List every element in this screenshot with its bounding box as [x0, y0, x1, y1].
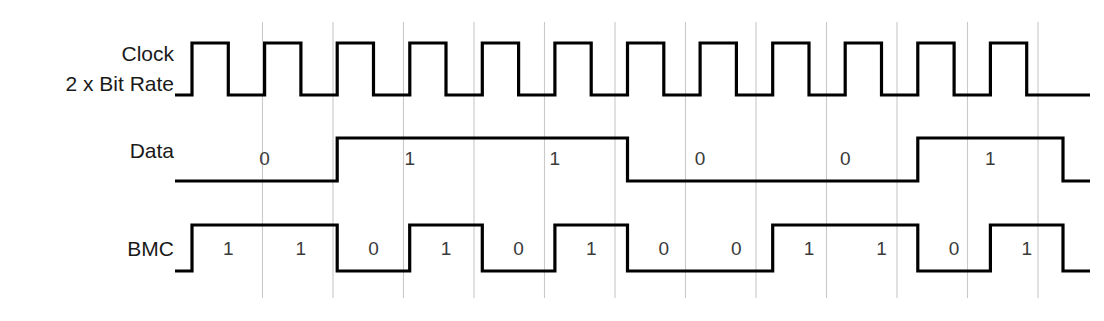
gridline-group	[263, 22, 1039, 298]
bit-label-bmc-8: 1	[804, 238, 815, 259]
bit-label-data-2: 1	[550, 148, 561, 169]
bit-label-data-5: 1	[985, 148, 996, 169]
clock-waveform	[175, 43, 1090, 95]
bit-label-bmc-10: 0	[949, 238, 960, 259]
waveform-group	[175, 43, 1090, 271]
row-label-clock: Clock	[121, 42, 174, 65]
bit-label-bmc-2: 0	[368, 238, 379, 259]
bit-label-bmc-7: 0	[731, 238, 742, 259]
row-label-data: Data	[130, 139, 175, 162]
row-label-clock: 2 x Bit Rate	[65, 72, 174, 95]
data-waveform	[175, 138, 1090, 181]
timing-diagram-canvas: Clock2 x Bit RateDataBMC 011001110101001…	[0, 0, 1104, 321]
bit-label-data-0: 0	[259, 148, 270, 169]
bit-label-bmc-4: 0	[513, 238, 524, 259]
row-label-group: Clock2 x Bit RateDataBMC	[65, 42, 174, 260]
bit-label-bmc-5: 1	[586, 238, 597, 259]
bit-label-data-4: 0	[840, 148, 851, 169]
bit-label-bmc-9: 1	[876, 238, 887, 259]
timing-diagram-svg: Clock2 x Bit RateDataBMC 011001110101001…	[0, 0, 1104, 321]
bit-label-data-1: 1	[405, 148, 416, 169]
bit-label-bmc-1: 1	[296, 238, 307, 259]
bit-label-bmc-11: 1	[1021, 238, 1032, 259]
bit-label-data-3: 0	[695, 148, 706, 169]
row-label-bmc: BMC	[127, 237, 174, 260]
bit-label-bmc-6: 0	[659, 238, 670, 259]
bit-label-bmc-0: 1	[223, 238, 234, 259]
bit-label-bmc-3: 1	[441, 238, 452, 259]
